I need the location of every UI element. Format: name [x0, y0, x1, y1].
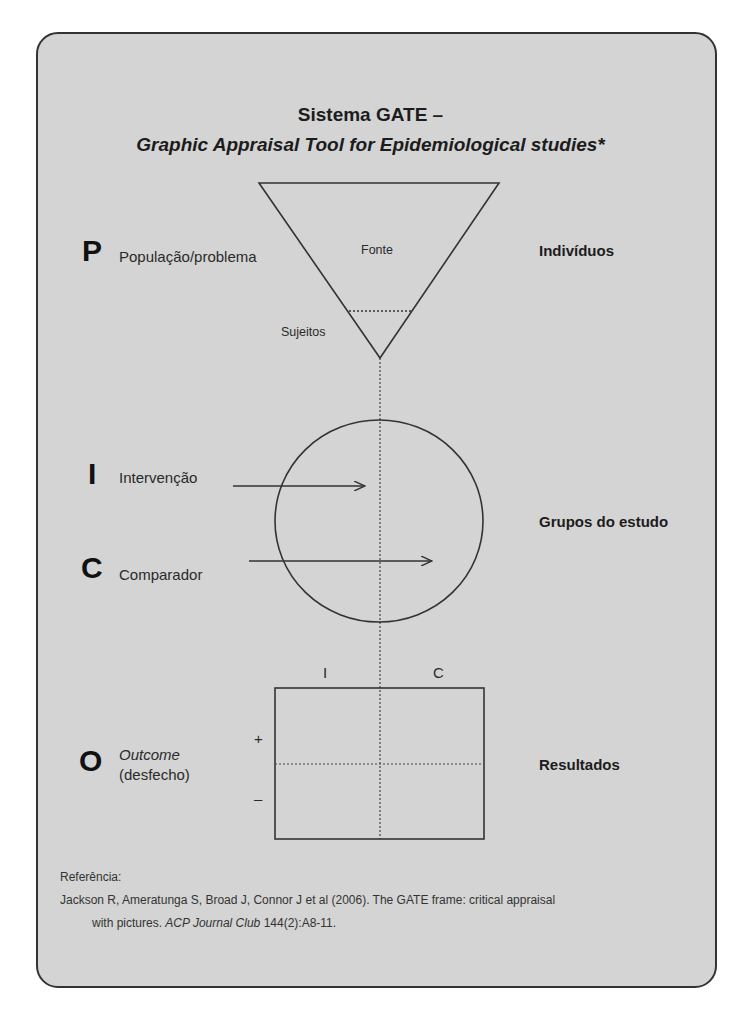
reference-heading: Referência: — [60, 870, 121, 884]
subjects-label: Sujeitos — [281, 325, 325, 339]
population-label: População/problema — [119, 248, 257, 265]
letter-p: P — [82, 234, 102, 268]
positive-row-label: + — [254, 730, 263, 747]
results-label: Resultados — [539, 756, 620, 773]
reference-line-2-pre: with pictures. — [92, 916, 165, 930]
source-label: Fonte — [361, 243, 393, 257]
study-groups-label: Grupos do estudo — [539, 513, 668, 530]
outcome-label: Outcome — [119, 746, 180, 763]
reference-line-1: Jackson R, Ameratunga S, Broad J, Connor… — [60, 893, 555, 907]
column-i-label: I — [323, 664, 327, 681]
letter-i: I — [88, 457, 96, 491]
outcome-translation: (desfecho) — [119, 766, 190, 783]
reference-line-2: with pictures. ACP Journal Club 144(2):A… — [92, 916, 336, 930]
letter-c: C — [81, 551, 103, 585]
individuals-label: Indivíduos — [539, 242, 614, 259]
letter-o: O — [79, 744, 102, 778]
gate-diagram — [0, 0, 741, 1021]
column-c-label: C — [433, 664, 444, 681]
negative-row-label: – — [254, 790, 262, 807]
reference-line-2-post: 144(2):A8-11. — [260, 916, 336, 930]
journal-name: ACP Journal Club — [165, 916, 260, 930]
intervention-label: Intervenção — [119, 469, 197, 486]
comparator-label: Comparador — [119, 566, 202, 583]
study-groups-circle — [275, 420, 483, 622]
